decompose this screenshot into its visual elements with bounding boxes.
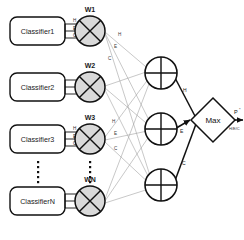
ellipsis-dot bbox=[37, 171, 39, 173]
output-superscript: * bbox=[239, 107, 241, 112]
fanout-label-c: C bbox=[108, 56, 112, 61]
ellipsis-dot bbox=[37, 181, 39, 183]
sum-node-e[interactable] bbox=[145, 113, 177, 145]
classifier-node-3[interactable]: Classifier3 bbox=[10, 125, 65, 153]
classifier-label: Classifier3 bbox=[21, 135, 55, 144]
classifier-label: Classifier1 bbox=[21, 27, 55, 36]
classifier-label: Classifier2 bbox=[21, 83, 55, 92]
rail-label-h: H bbox=[73, 126, 76, 131]
sum-edge-label-c: C bbox=[182, 160, 186, 166]
sum-node-h[interactable] bbox=[145, 57, 177, 89]
ellipsis-dot bbox=[37, 161, 39, 163]
ellipsis-dot bbox=[89, 171, 91, 173]
weight-label: W1 bbox=[85, 6, 96, 13]
fanout-line bbox=[105, 33, 152, 126]
fanout-lines-group bbox=[105, 32, 152, 203]
ellipsis-dot bbox=[37, 176, 39, 178]
fanout-line bbox=[105, 142, 152, 186]
ellipsis-dot bbox=[89, 176, 91, 178]
output-label: P bbox=[234, 109, 238, 115]
fanout-label-h: H bbox=[112, 119, 115, 124]
fanout-label-c: C bbox=[114, 146, 118, 151]
fanout-label-e: E bbox=[114, 131, 117, 136]
fanout-label-h: H bbox=[118, 32, 121, 37]
weight-label: W3 bbox=[85, 114, 96, 121]
sum-edge-label-h: H bbox=[183, 87, 187, 93]
max-label: Max bbox=[205, 116, 220, 125]
classifier-label: ClassifierN bbox=[20, 197, 55, 206]
ellipsis-group bbox=[37, 161, 91, 183]
sum-node-c[interactable] bbox=[145, 169, 177, 201]
classifier-node-n[interactable]: ClassifierN bbox=[10, 187, 65, 215]
multiplier-node-2[interactable]: W2 bbox=[75, 62, 105, 102]
fanout-line bbox=[105, 32, 152, 72]
weight-label: W2 bbox=[85, 62, 96, 69]
classifier-node-2[interactable]: Classifier2 bbox=[10, 73, 65, 101]
ensemble-diagram-svg: Classifier1 Classifier2 Classifier3 Clas… bbox=[0, 0, 244, 240]
diagram-canvas: Classifier1 Classifier2 Classifier3 Clas… bbox=[0, 0, 244, 240]
ellipsis-dot bbox=[89, 181, 91, 183]
sum-to-max-line-h bbox=[173, 74, 196, 118]
multiplier-node-3[interactable]: W3 bbox=[75, 114, 105, 154]
sum-edge-label-e: E bbox=[180, 128, 184, 134]
ellipsis-dot bbox=[37, 166, 39, 168]
fanout-label-e: E bbox=[114, 44, 117, 49]
ellipsis-dot bbox=[89, 166, 91, 168]
rail-label-h: H bbox=[73, 18, 76, 23]
fanout-line bbox=[105, 132, 152, 201]
multiplier-node-1[interactable]: W1 bbox=[75, 6, 105, 46]
max-decision-node[interactable]: Max bbox=[191, 98, 235, 142]
output-sublabel: H/E/C bbox=[229, 126, 240, 131]
classifier-node-1[interactable]: Classifier1 bbox=[10, 17, 65, 45]
ellipsis-dot bbox=[89, 161, 91, 163]
